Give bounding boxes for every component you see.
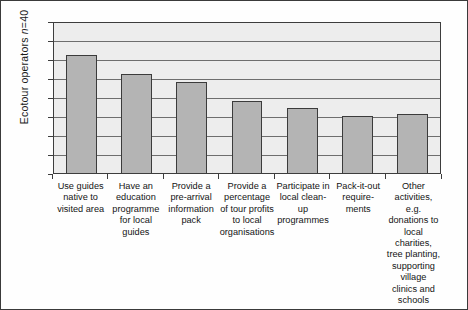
x-axis-category-labels: Use guides native to visited areaHave an… <box>53 181 441 306</box>
x-category-label: Participate in local clean-up programmes <box>275 181 330 227</box>
x-axis-ticks <box>53 174 441 179</box>
y-axis-title-text: Ecotour operators <box>18 34 30 124</box>
bar[interactable] <box>66 55 97 173</box>
x-category-label: Provide a pre-arrival information pack <box>163 181 218 227</box>
y-tick-mark <box>48 60 53 61</box>
x-category-label: Pack-it-out require-ments <box>331 181 386 215</box>
x-tick-mark <box>108 174 163 179</box>
y-tick-mark <box>48 155 53 156</box>
bar[interactable] <box>121 74 152 173</box>
bar-slot <box>219 23 274 173</box>
bar[interactable] <box>287 108 318 173</box>
x-tick-mark <box>386 174 441 179</box>
bar-slot <box>109 23 164 173</box>
x-category-label: Provide a percentage of tour profits to … <box>219 181 276 238</box>
chart-frame: Ecotour operators n=40 4035302520151050 … <box>0 0 468 310</box>
y-axis-title-italic-n: n <box>18 28 30 34</box>
x-category-label: Other activities, e.g. donations to loca… <box>386 181 441 306</box>
bar-slot <box>164 23 219 173</box>
y-tick-mark <box>48 22 53 23</box>
x-tick-mark <box>53 174 108 179</box>
x-tick-mark <box>275 174 330 179</box>
bar-slot <box>330 23 385 173</box>
bar[interactable] <box>342 116 373 173</box>
bar-slot <box>54 23 109 173</box>
x-tick-mark <box>219 174 274 179</box>
x-tick-mark <box>330 174 385 179</box>
x-tick-mark <box>164 174 219 179</box>
y-tick-mark <box>48 136 53 137</box>
bar-slot <box>275 23 330 173</box>
y-tick-mark <box>48 117 53 118</box>
y-tick-mark <box>48 98 53 99</box>
y-tick-mark <box>48 79 53 80</box>
bar-series <box>54 23 440 173</box>
x-category-label: Have an education programme for local gu… <box>108 181 163 238</box>
x-category-label: Use guides native to visited area <box>53 181 108 215</box>
bar[interactable] <box>397 114 428 173</box>
plot-area: 4035302520151050 <box>53 22 441 174</box>
y-axis-title-value: =40 <box>18 10 30 28</box>
bar[interactable] <box>176 82 207 173</box>
bar[interactable] <box>232 101 263 173</box>
y-tick-mark <box>48 41 53 42</box>
bar-slot <box>385 23 440 173</box>
y-axis-title: Ecotour operators n=40 <box>18 0 30 142</box>
